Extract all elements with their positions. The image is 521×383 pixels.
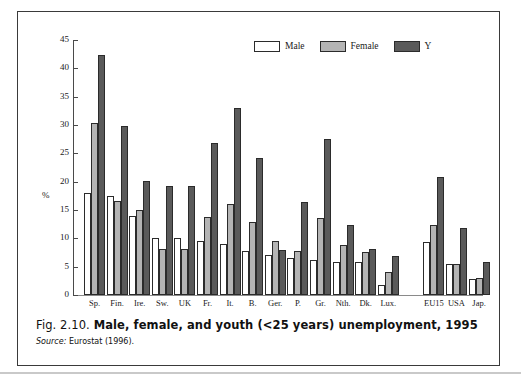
legend-swatch-female-icon: [320, 41, 346, 52]
legend-item-male: Male: [254, 41, 305, 52]
y-axis-tick-label: 0: [18, 290, 69, 299]
y-axis-tick-value: 20: [27, 177, 69, 186]
bar-youth: [324, 139, 331, 295]
legend-label-male: Male: [285, 41, 305, 51]
bar-group: [242, 40, 263, 295]
bar-male: [107, 196, 114, 295]
bar-male: [469, 279, 476, 295]
bar-youth: [211, 143, 218, 295]
bar-group: [469, 40, 490, 295]
bar-male: [174, 238, 181, 295]
bar-youth: [234, 108, 241, 295]
bar-male: [152, 238, 159, 295]
y-axis-tick-label: 40: [18, 63, 69, 72]
bar-youth: [301, 202, 308, 296]
bar-female: [272, 241, 279, 295]
bar-groups: [74, 40, 483, 295]
bar-female: [385, 272, 392, 295]
bar-youth: [392, 256, 399, 295]
bar-male: [310, 260, 317, 295]
caption-source: Source: Eurostat (1996).: [36, 337, 486, 346]
y-axis-tick-label: 20: [18, 177, 69, 186]
bar-group: [333, 40, 354, 295]
x-axis-label: Jap.: [459, 298, 499, 308]
bar-youth: [121, 126, 128, 295]
x-axis-line: [73, 295, 483, 296]
y-axis-tick-label: 35: [18, 92, 69, 101]
bar-female: [227, 204, 234, 295]
legend-item-youth: Y: [394, 41, 432, 52]
bar-group: [355, 40, 376, 295]
bar-group: [152, 40, 173, 295]
bar-female: [91, 123, 98, 295]
bar-youth: [437, 177, 444, 295]
bar-male: [84, 193, 91, 295]
y-axis-tick-value: 15: [27, 205, 69, 214]
y-axis-tick-value: 45: [27, 35, 69, 44]
page-rule-divider: [0, 372, 521, 374]
chart-plot-area: % 051015202530354045 Sp.Fin.Ire.Sw.UKFr.…: [18, 12, 501, 312]
y-axis-tick: [73, 295, 78, 296]
bar-group: [446, 40, 467, 295]
y-axis-tick-value: 5: [27, 262, 69, 271]
figure-frame: % 051015202530354045 Sp.Fin.Ire.Sw.UKFr.…: [17, 11, 500, 366]
caption-title: Fig. 2.10. Male, female, and youth (<25 …: [36, 318, 486, 332]
bar-youth: [98, 55, 105, 295]
bar-group: [129, 40, 150, 295]
bar-male: [197, 241, 204, 295]
bar-youth: [188, 186, 195, 295]
bar-female: [114, 201, 121, 295]
figure-caption: Fig. 2.10. Male, female, and youth (<25 …: [36, 318, 486, 346]
legend-label-female: Female: [351, 41, 379, 51]
y-axis-tick-value: 25: [27, 148, 69, 157]
bar-group: [220, 40, 241, 295]
bar-male: [423, 242, 430, 295]
bar-group: [265, 40, 286, 295]
bar-male: [355, 262, 362, 295]
bar-female: [204, 217, 211, 295]
bar-group: [287, 40, 308, 295]
bar-female: [249, 222, 256, 295]
figure-page: % 051015202530354045 Sp.Fin.Ire.Sw.UKFr.…: [0, 0, 521, 383]
bar-male: [129, 216, 136, 295]
bar-group: [107, 40, 128, 295]
bar-female: [136, 210, 143, 295]
bar-male: [333, 262, 340, 295]
bar-male: [378, 285, 385, 295]
bar-male: [446, 264, 453, 295]
y-axis-tick-value: 10: [27, 233, 69, 242]
x-axis-label: Lux.: [368, 298, 408, 308]
y-axis-tick-label: 10: [18, 233, 69, 242]
bar-group: [378, 40, 399, 295]
bar-male: [265, 255, 272, 295]
bar-female: [453, 264, 460, 295]
bar-female: [476, 278, 483, 295]
y-axis-tick-value: 0: [27, 290, 69, 299]
bar-female: [430, 225, 437, 295]
bar-group: [174, 40, 195, 295]
bar-female: [362, 252, 369, 295]
bar-male: [220, 244, 227, 295]
bar-youth: [483, 262, 490, 295]
bar-youth: [369, 249, 376, 295]
source-word: Source:: [36, 337, 66, 346]
bar-youth: [347, 225, 354, 295]
legend-swatch-male-icon: [254, 41, 280, 52]
y-axis-tick-label: 45: [18, 35, 69, 44]
bar-youth: [279, 250, 286, 295]
bar-female: [181, 249, 188, 295]
bar-male: [287, 258, 294, 295]
caption-text: Male, female, and youth (<25 years) unem…: [94, 318, 478, 332]
bar-youth: [166, 186, 173, 295]
bar-group: [310, 40, 331, 295]
y-axis-tick-value: 40: [27, 63, 69, 72]
bar-group: [197, 40, 218, 295]
y-axis-tick-label: 25: [18, 148, 69, 157]
bar-female: [317, 218, 324, 295]
caption-number: Fig. 2.10.: [36, 318, 90, 332]
bar-youth: [256, 158, 263, 295]
y-axis-tick-label: 5: [18, 262, 69, 271]
legend-item-female: Female: [320, 41, 379, 52]
bar-youth: [143, 181, 150, 295]
bar-group: [84, 40, 105, 295]
